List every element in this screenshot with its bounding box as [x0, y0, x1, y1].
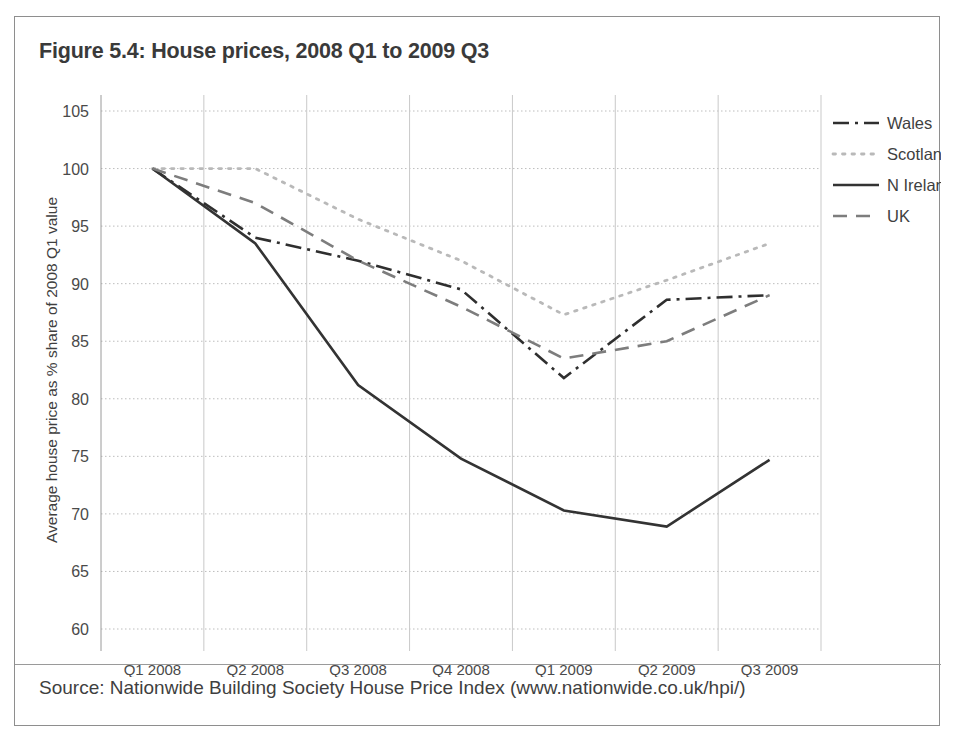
y-tick-label: 100	[62, 161, 89, 178]
figure-container: Figure 5.4: House prices, 2008 Q1 to 200…	[14, 16, 940, 726]
y-axis-ticks: 6065707580859095100105	[62, 103, 89, 638]
y-tick-label: 105	[62, 103, 89, 120]
series-line-uk	[152, 169, 769, 359]
source-divider	[15, 664, 941, 665]
y-tick-label: 90	[71, 276, 89, 293]
y-tick-label: 95	[71, 218, 89, 235]
y-tick-label: 75	[71, 448, 89, 465]
y-axis-label: Average house price as % share of 2008 Q…	[43, 197, 60, 543]
legend-label-scotland: Scotland	[887, 145, 941, 163]
data-series-lines	[152, 169, 769, 527]
legend-label-uk: UK	[887, 207, 910, 225]
legend-label-n-ireland: N Ireland	[887, 176, 941, 194]
chart-plot-area: 6065707580859095100105 Q1 2008Q2 2008Q3 …	[15, 17, 941, 727]
source-note: Source: Nationwide Building Society Hous…	[39, 677, 746, 699]
y-tick-label: 65	[71, 563, 89, 580]
series-line-scotland	[152, 169, 769, 315]
chart-legend: WalesScotlandN IrelandUK	[833, 114, 941, 225]
legend-label-wales: Wales	[887, 114, 932, 132]
y-tick-label: 60	[71, 621, 89, 638]
series-line-n-ireland	[152, 169, 769, 527]
grid-lines	[101, 111, 821, 629]
y-tick-label: 85	[71, 333, 89, 350]
line-chart: 6065707580859095100105 Q1 2008Q2 2008Q3 …	[15, 17, 941, 677]
chart-axes	[101, 95, 821, 651]
y-axis-label-text: Average house price as % share of 2008 Q…	[43, 197, 60, 543]
y-tick-label: 80	[71, 391, 89, 408]
y-tick-label: 70	[71, 506, 89, 523]
